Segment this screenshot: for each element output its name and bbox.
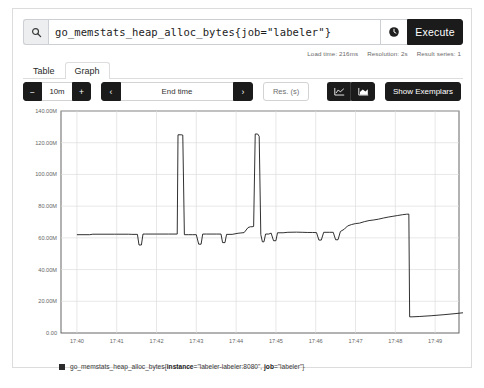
tab-graph[interactable]: Graph — [65, 62, 110, 79]
svg-text:17:49: 17:49 — [428, 338, 442, 344]
svg-text:20.00M: 20.00M — [38, 298, 57, 304]
legend-series-label[interactable]: go_memstats_heap_alloc_bytes{instance="l… — [70, 363, 304, 370]
chart-type-toggle-group — [327, 82, 375, 101]
time-nav-next-button[interactable]: › — [233, 82, 253, 101]
result-series-count: Result series: 1 — [417, 50, 461, 57]
load-time: Load time: 216ms — [307, 50, 358, 57]
svg-text:17:41: 17:41 — [110, 338, 124, 344]
spacer — [253, 82, 263, 101]
legend-label-instance-key: instance — [167, 363, 194, 370]
svg-text:40.00M: 40.00M — [38, 267, 57, 273]
svg-text:140.00M: 140.00M — [35, 108, 57, 114]
prometheus-graph-page: go_memstats_heap_alloc_bytes{job="labele… — [0, 0, 484, 388]
spacer — [375, 82, 385, 101]
svg-text:120.00M: 120.00M — [35, 140, 57, 146]
legend-label-job-key: job — [264, 363, 274, 370]
query-stats: Load time: 216ms Resolution: 2s Result s… — [307, 50, 461, 57]
view-tabs: Table Graph — [23, 60, 463, 79]
spacer — [91, 82, 101, 101]
tab-table[interactable]: Table — [23, 62, 65, 79]
svg-text:0.00: 0.00 — [46, 330, 57, 336]
execute-button[interactable]: Execute — [407, 19, 463, 45]
expression-input[interactable]: go_memstats_heap_alloc_bytes{job="labele… — [48, 19, 380, 45]
svg-text:17:46: 17:46 — [309, 338, 323, 344]
legend-metric-name: go_memstats_heap_alloc_bytes{ — [70, 363, 167, 370]
range-stepper: − 10m + — [23, 82, 91, 101]
spacer — [309, 82, 327, 101]
svg-text:17:47: 17:47 — [349, 338, 363, 344]
range-decrease-button[interactable]: − — [23, 82, 42, 101]
graph-plot[interactable]: 0.0020.00M40.00M60.00M80.00M100.00M120.0… — [23, 105, 463, 355]
time-nav-prev-button[interactable]: ‹ — [101, 82, 121, 101]
stacked-area-icon[interactable] — [351, 82, 375, 101]
graph-svg[interactable]: 0.0020.00M40.00M60.00M80.00M100.00M120.0… — [23, 105, 463, 355]
svg-text:17:48: 17:48 — [388, 338, 402, 344]
svg-text:60.00M: 60.00M — [38, 235, 57, 241]
resolution-stat: Resolution: 2s — [367, 50, 408, 57]
query-panel: go_memstats_heap_alloc_bytes{job="labele… — [12, 8, 472, 368]
graph-legend: go_memstats_heap_alloc_bytes{instance="l… — [59, 363, 304, 370]
svg-text:17:44: 17:44 — [229, 338, 243, 344]
query-bar: go_memstats_heap_alloc_bytes{job="labele… — [23, 19, 463, 45]
legend-color-swatch[interactable] — [59, 364, 65, 370]
svg-text:17:40: 17:40 — [70, 338, 84, 344]
end-time-picker: ‹ End time › — [101, 82, 253, 101]
svg-text:17:43: 17:43 — [189, 338, 203, 344]
legend-label-job-value: ="labeler"} — [274, 363, 305, 370]
line-chart-icon[interactable] — [327, 82, 351, 101]
search-icon — [23, 19, 48, 45]
end-time-input[interactable]: End time — [121, 82, 233, 101]
svg-text:17:45: 17:45 — [269, 338, 283, 344]
resolution-input[interactable]: Res. (s) — [263, 82, 309, 101]
svg-text:100.00M: 100.00M — [35, 171, 57, 177]
range-input[interactable]: 10m — [42, 82, 72, 101]
expression-text: go_memstats_heap_alloc_bytes{job="labele… — [55, 26, 331, 38]
query-history-button[interactable] — [380, 19, 407, 45]
svg-text:17:42: 17:42 — [150, 338, 164, 344]
range-increase-button[interactable]: + — [72, 82, 91, 101]
legend-label-instance-value: ="labeler-labeler:8080", — [194, 363, 264, 370]
show-exemplars-button[interactable]: Show Exemplars — [385, 82, 461, 101]
graph-controls: − 10m + ‹ End time › Res. (s) — [23, 82, 465, 101]
svg-text:80.00M: 80.00M — [38, 203, 57, 209]
